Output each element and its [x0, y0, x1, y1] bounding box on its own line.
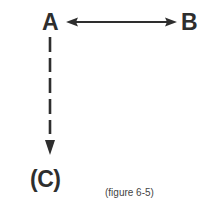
node-c-label: (C): [30, 168, 60, 191]
node-b-label: B: [181, 11, 198, 34]
figure-caption: (figure 6-5): [105, 187, 154, 198]
arrowhead-down-icon: [45, 140, 55, 155]
edge-a-b-bidirectional-arrow: [66, 18, 177, 27]
node-a-label: A: [42, 11, 59, 34]
edge-a-c-dashed-arrow: [45, 37, 55, 155]
